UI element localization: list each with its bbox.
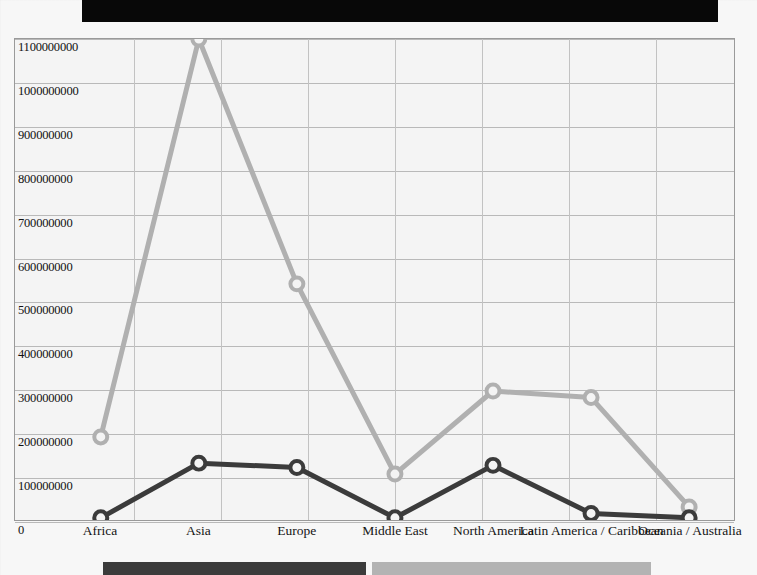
legend-swatch-dark xyxy=(103,562,366,575)
data-point-marker xyxy=(290,461,303,474)
data-point-marker xyxy=(683,511,696,520)
series-line-0 xyxy=(101,39,689,507)
chart-plot-area: 1100000000100000000090000000080000000070… xyxy=(14,38,735,521)
x-axis-tick-label: Asia xyxy=(186,524,211,538)
data-point-marker xyxy=(94,511,107,520)
data-point-marker xyxy=(290,277,303,290)
data-point-marker xyxy=(192,39,205,45)
data-point-marker xyxy=(487,385,500,398)
redaction-bar xyxy=(82,0,718,22)
x-axis-tick-label: Middle East xyxy=(362,524,428,538)
data-point-marker xyxy=(192,457,205,470)
data-point-marker xyxy=(585,507,598,520)
x-axis-tick-label: Africa xyxy=(83,524,117,538)
data-point-marker xyxy=(94,430,107,443)
x-axis-tick-label: Europe xyxy=(277,524,316,538)
legend-swatch-light xyxy=(372,562,651,575)
x-axis-tick-labels: AfricaAsiaEuropeMiddle EastNorth America… xyxy=(14,524,735,544)
line-series-plot xyxy=(15,39,734,520)
data-point-marker xyxy=(487,459,500,472)
chart-page: 1100000000100000000090000000080000000070… xyxy=(0,0,757,575)
x-axis-tick-label: Oceania / Australia xyxy=(638,524,741,538)
data-point-marker xyxy=(388,468,401,481)
data-point-marker xyxy=(585,391,598,404)
data-point-marker xyxy=(388,511,401,520)
chart-legend xyxy=(103,562,651,575)
